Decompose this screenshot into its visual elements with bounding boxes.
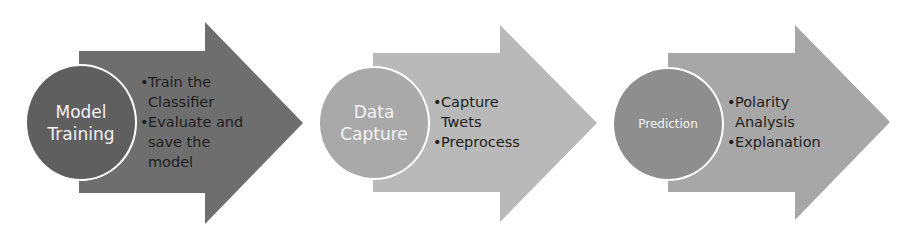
stage-circle-prediction: Prediction: [612, 67, 724, 181]
stage-bullets-prediction: Polarity Analysis Explanation: [727, 92, 837, 152]
stage-bullets-data-capture: Capture Twets Preprocess: [433, 92, 543, 152]
stage-title-line: Capture: [340, 123, 408, 145]
bullet-item: Capture Twets: [433, 92, 543, 132]
stage-title-line: Data: [340, 101, 408, 123]
stage-title-line: Model: [47, 101, 114, 123]
bullet-item: Polarity Analysis: [727, 92, 837, 132]
stage-circle-data-capture: Data Capture: [318, 66, 430, 180]
bullet-item: Explanation: [727, 132, 837, 152]
stage-circle-model-training: Model Training: [25, 64, 137, 181]
stage-bullets-model-training: Train the Classifier Evaluate and save t…: [140, 72, 260, 172]
stage-title: Prediction: [638, 113, 698, 135]
stage-title-line: Prediction: [638, 113, 698, 135]
process-diagram: Model Training Train the Classifier Eval…: [0, 0, 917, 230]
stage-title: Model Training: [47, 101, 114, 145]
stage-title-line: Training: [47, 123, 114, 145]
stage-title: Data Capture: [340, 101, 408, 145]
bullet-item: Train the Classifier: [140, 72, 260, 112]
bullet-item: Preprocess: [433, 132, 543, 152]
bullet-item: Evaluate and save the model: [140, 112, 260, 172]
